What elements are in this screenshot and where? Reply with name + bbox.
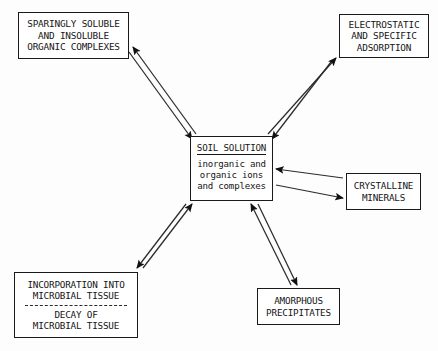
soil-solution-to-crystalline-inbound	[276, 169, 343, 178]
node-line: AMORPHOUS	[274, 295, 323, 306]
node-line: AND INSOLUBLE	[38, 30, 109, 41]
node-title: SOIL SOLUTION	[197, 142, 266, 155]
node-line: INCORPORATION INTO	[27, 279, 124, 290]
node-line: ORGANIC COMPLEXES	[27, 41, 120, 52]
soil-solution-to-microbial-inbound	[143, 204, 192, 268]
node-line: CRYSTALLINE	[354, 180, 413, 191]
soil-solution-to-electrostatic-inbound	[272, 62, 331, 139]
node-line: organic ions	[197, 170, 266, 181]
node-line: MICROBIAL TISSUE	[33, 290, 119, 301]
dashed-divider	[25, 305, 127, 306]
node-line: PRECIPITATES	[266, 307, 331, 318]
node-microbial-tissue[interactable]: INCORPORATION INTO MICROBIAL TISSUE DECA…	[14, 272, 138, 338]
node-crystalline-minerals[interactable]: CRYSTALLINE MINERALS	[346, 173, 421, 210]
node-line: MINERALS	[362, 192, 405, 203]
soil-solution-to-amorphous-inbound	[251, 204, 291, 285]
soil-solution-to-organic-complexes-outbound	[133, 47, 196, 134]
soil-solution-to-microbial-outbound	[137, 204, 186, 268]
node-line: DECAY OF	[54, 309, 97, 320]
node-electrostatic-and-specific-adsorption[interactable]: ELECTROSTATIC AND SPECIFIC ADSORPTION	[339, 14, 429, 58]
node-line: SPARINGLY SOLUBLE	[27, 18, 120, 29]
node-sparingly-soluble-organic-complexes[interactable]: SPARINGLY SOLUBLE AND INSOLUBLE ORGANIC …	[18, 12, 129, 59]
node-line: MICROBIAL TISSUE	[33, 320, 119, 331]
diagram-canvas: SPARINGLY SOLUBLE AND INSOLUBLE ORGANIC …	[0, 0, 438, 351]
soil-solution-to-organic-complexes-inbound	[129, 52, 192, 139]
node-line: inorganic and	[197, 159, 266, 170]
node-line: AND SPECIFIC	[351, 30, 416, 41]
node-body: inorganic and organic ions and complexes	[197, 159, 266, 192]
soil-solution-to-crystalline-outbound	[276, 185, 343, 198]
node-soil-solution[interactable]: SOIL SOLUTION inorganic and organic ions…	[190, 136, 273, 201]
soil-solution-to-amorphous-outbound	[258, 204, 297, 285]
node-amorphous-precipitates[interactable]: AMORPHOUS PRECIPITATES	[257, 288, 340, 325]
node-line: ELECTROSTATIC	[349, 19, 420, 30]
node-line: ADSORPTION	[357, 42, 411, 53]
node-line: and complexes	[197, 181, 266, 192]
